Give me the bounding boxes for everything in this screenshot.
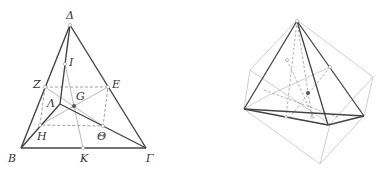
right-cube-tetrahedron (244, 19, 373, 164)
diagram-canvas: Δ I Z E Λ G H Θ B K Γ (0, 0, 385, 171)
point-centroid (306, 91, 310, 95)
point-G (72, 104, 76, 108)
label-Delta: Δ (65, 9, 74, 22)
label-Theta: Θ (97, 130, 106, 143)
point-mid-1 (286, 59, 289, 62)
label-B: B (7, 152, 16, 165)
point-mid-4 (311, 116, 314, 119)
point-K (81, 146, 84, 149)
label-Z: Z (32, 78, 41, 91)
point-mid-3 (285, 116, 288, 119)
point-Theta (101, 124, 104, 127)
point-Delta (68, 23, 71, 26)
point-mid-2 (329, 66, 332, 69)
label-I: I (68, 56, 74, 69)
label-Lambda: Λ (46, 97, 55, 110)
label-E: E (111, 78, 120, 91)
point-E (106, 85, 109, 88)
left-tetrahedron: Δ I Z E Λ G H Θ B K Γ (7, 9, 154, 165)
point-Z (43, 85, 46, 88)
point-I (63, 62, 66, 65)
label-H: H (36, 130, 47, 143)
point-H (38, 123, 41, 126)
tetrahedron-edges (244, 21, 364, 125)
label-Gamma: Γ (145, 152, 154, 165)
label-K: K (79, 152, 89, 165)
point-apex (295, 19, 298, 22)
label-G: G (76, 90, 85, 103)
